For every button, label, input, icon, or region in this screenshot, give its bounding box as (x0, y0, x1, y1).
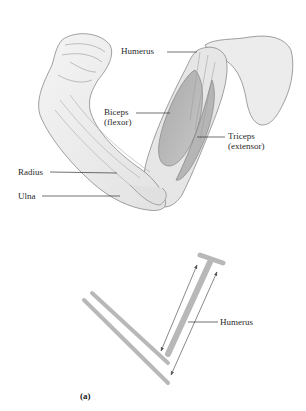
ulna-label: Ulna (18, 191, 36, 201)
radius-label: Radius (18, 167, 43, 177)
schematic-diagram (84, 255, 223, 383)
forearm-icon (39, 34, 167, 211)
diagram-illustration (0, 0, 306, 411)
radius-bar-icon (92, 293, 168, 363)
humerus-bar-icon (168, 262, 210, 354)
triceps-label-line1: Triceps (228, 131, 264, 141)
triceps-label: Triceps (extensor) (228, 131, 264, 151)
triceps-label-line2: (extensor) (228, 141, 264, 151)
biceps-label-line1: Biceps (104, 107, 131, 117)
arm-muscle-diagram: Humerus Biceps (flexor) Triceps (extenso… (0, 0, 306, 411)
schematic-humerus-label: Humerus (220, 317, 253, 327)
panel-label: (a) (80, 391, 91, 401)
biceps-label-line2: (flexor) (104, 117, 131, 127)
biceps-label: Biceps (flexor) (104, 107, 131, 127)
triceps-arrow-icon (171, 272, 217, 375)
humerus-label: Humerus (121, 46, 154, 56)
ulna-bar-icon (84, 300, 168, 383)
